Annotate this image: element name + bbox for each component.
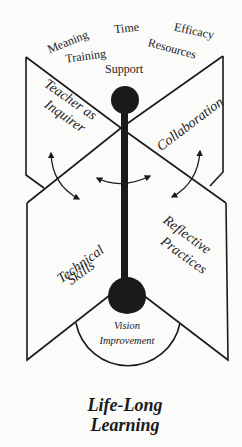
caption-line2: Learning — [89, 415, 159, 435]
caption-line1: Life-Long — [87, 395, 163, 415]
factor-support: Support — [105, 62, 144, 76]
factor-training: Training — [64, 46, 106, 66]
label-collaboration: Collaboration — [154, 94, 226, 154]
label-technical-skills: Technical Skills — [54, 242, 107, 287]
stem — [121, 100, 128, 295]
factor-efficacy: Efficacy — [173, 20, 215, 42]
butterfly-body — [108, 86, 146, 314]
label-vision: Vision — [114, 320, 140, 331]
label-teacher-as-inquirer: Teacher as Inquirer — [41, 76, 100, 136]
arrow-left-icon — [51, 153, 79, 199]
label-improvement: Improvement — [98, 335, 155, 346]
factor-time: Time — [113, 20, 139, 37]
factor-resources: Resources — [146, 35, 198, 61]
butterfly-diagram: Meaning Time Efficacy Training Resources… — [0, 0, 242, 447]
label-reflective-practices: Reflective Practices — [157, 212, 214, 277]
base-dome — [108, 277, 146, 314]
